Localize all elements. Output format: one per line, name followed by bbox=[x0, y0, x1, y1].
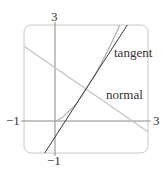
y-max-label: 3 bbox=[51, 10, 58, 23]
y-min-label: −1 bbox=[47, 154, 61, 167]
normal-annotation: normal bbox=[106, 88, 143, 101]
tangent-annotation: tangent bbox=[114, 46, 152, 59]
x-max-label: 3 bbox=[153, 114, 160, 127]
x-min-label: −1 bbox=[6, 114, 20, 127]
